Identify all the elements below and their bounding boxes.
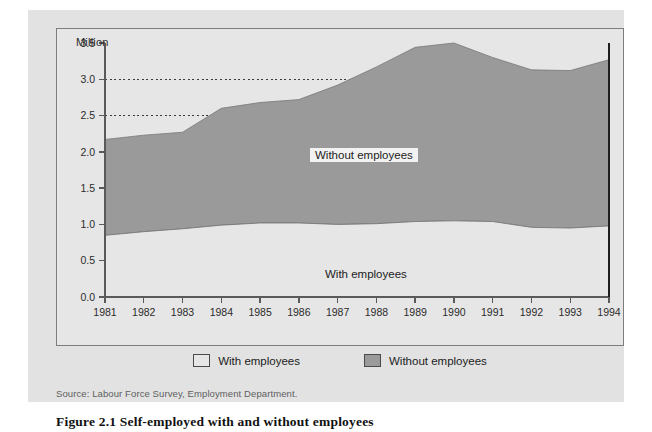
svg-text:1.0: 1.0 (80, 218, 95, 230)
legend-item-without-employees: Without employees (364, 354, 487, 367)
legend-swatch-without-employees (364, 354, 381, 367)
legend-swatch-with-employees (193, 354, 210, 367)
figure-root: 0.00.51.01.52.02.53.03.51981198219831984… (0, 0, 652, 432)
svg-text:0.5: 0.5 (80, 254, 95, 266)
svg-text:1993: 1993 (559, 306, 583, 318)
source-note: Source: Labour Force Survey, Employment … (56, 388, 297, 399)
svg-text:1981: 1981 (93, 306, 117, 318)
svg-text:1994: 1994 (597, 306, 621, 318)
series-label-with-employees: With employees (325, 268, 407, 280)
svg-text:1984: 1984 (210, 306, 234, 318)
area-chart: 0.00.51.01.52.02.53.03.51981198219831984… (57, 29, 623, 345)
y-axis-unit-label: Million (76, 36, 109, 48)
svg-text:1987: 1987 (326, 306, 350, 318)
svg-text:1990: 1990 (442, 306, 466, 318)
figure-panel: 0.00.51.01.52.02.53.03.51981198219831984… (28, 10, 624, 402)
svg-text:1985: 1985 (248, 306, 272, 318)
figure-caption: Figure 2.1 Self-employed with and withou… (56, 414, 374, 430)
svg-text:2.0: 2.0 (80, 146, 95, 158)
svg-text:0.0: 0.0 (80, 291, 95, 303)
svg-text:1.5: 1.5 (80, 182, 95, 194)
legend-label-with-employees: With employees (218, 355, 300, 367)
svg-text:1983: 1983 (171, 306, 195, 318)
svg-text:3.0: 3.0 (80, 73, 95, 85)
svg-text:1991: 1991 (481, 306, 505, 318)
svg-text:1988: 1988 (365, 306, 389, 318)
svg-text:2.5: 2.5 (80, 109, 95, 121)
svg-text:1982: 1982 (132, 306, 156, 318)
svg-text:1989: 1989 (403, 306, 427, 318)
legend-item-with-employees: With employees (193, 354, 300, 367)
chart-plot-frame: 0.00.51.01.52.02.53.03.51981198219831984… (56, 28, 624, 346)
svg-text:1986: 1986 (287, 306, 311, 318)
chart-legend: With employees Without employees (56, 354, 624, 367)
series-label-without-employees: Without employees (310, 148, 418, 162)
legend-label-without-employees: Without employees (389, 355, 487, 367)
svg-text:1992: 1992 (520, 306, 544, 318)
